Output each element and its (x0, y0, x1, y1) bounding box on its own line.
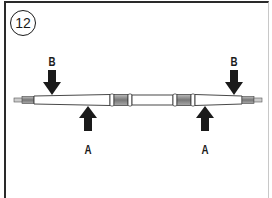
right-center-collar (173, 94, 195, 106)
arrow-up-icon (196, 106, 214, 131)
label-right-a: A (201, 142, 210, 157)
label-left-b: B (48, 54, 57, 69)
rod-right-segment (195, 95, 242, 106)
arrow-up-icon (79, 106, 97, 131)
arrow-down-icon (43, 70, 61, 95)
arrow-down-icon (225, 70, 243, 95)
label-right-b: B (230, 54, 239, 69)
right-threaded-end (242, 97, 262, 104)
left-center-collar (110, 94, 132, 106)
rod-illustration (0, 0, 272, 198)
rod-left-segment (34, 95, 110, 106)
label-left-a: A (84, 142, 93, 157)
left-threaded-end (14, 97, 34, 104)
rod-middle-segment (132, 95, 173, 105)
